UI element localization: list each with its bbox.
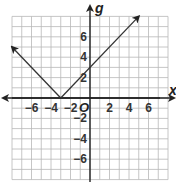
x-tick-label: 6 — [145, 101, 152, 115]
y-tick-label: 6 — [80, 30, 87, 44]
x-axis-label: x — [168, 82, 176, 98]
y-tick-label: 2 — [80, 71, 87, 85]
graph-segment — [12, 47, 61, 98]
x-tick-label: −6 — [25, 101, 39, 115]
x-tick-label: 2 — [106, 101, 113, 115]
x-tick-label: −4 — [44, 101, 58, 115]
y-tick-label: 4 — [80, 50, 87, 64]
x-tick-label: 4 — [126, 101, 133, 115]
y-tick-label: −4 — [73, 132, 87, 146]
origin-label: O — [79, 100, 89, 115]
y-axis-label: g — [94, 0, 104, 16]
coordinate-plane: −6−4−2246642−2−4−6 x g O — [0, 0, 176, 182]
y-tick-label: −6 — [73, 152, 87, 166]
